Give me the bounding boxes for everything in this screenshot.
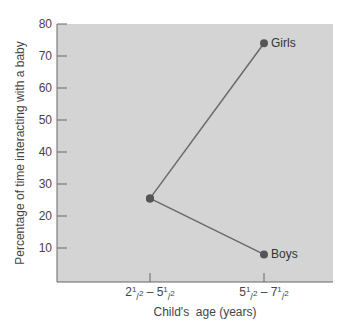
line-chart: 1020304050607080 21/2 – 51/251/2 – 71/2 … — [0, 0, 348, 329]
x-axis-title: Child's age (years) — [154, 305, 257, 319]
y-tick-label: 80 — [39, 17, 53, 31]
data-point-marker — [260, 250, 268, 258]
plot-area — [57, 24, 333, 282]
data-point-marker — [260, 39, 268, 47]
series-label-boys: Boys — [271, 247, 298, 261]
y-tick-label: 60 — [39, 81, 53, 95]
y-tick-label: 40 — [39, 145, 53, 159]
x-tick-label: 51/2 – 71/2 — [239, 285, 289, 302]
y-tick-label: 30 — [39, 177, 53, 191]
series-label-girls: Girls — [271, 36, 296, 50]
y-tick-label: 10 — [39, 241, 53, 255]
x-tick-label: 21/2 – 51/2 — [125, 285, 175, 302]
y-tick-label: 70 — [39, 49, 53, 63]
data-point-marker — [146, 194, 154, 202]
y-tick-label: 50 — [39, 113, 53, 127]
y-tick-label: 20 — [39, 209, 53, 223]
y-axis-title: Percentage of time interacting with a ba… — [13, 41, 27, 264]
